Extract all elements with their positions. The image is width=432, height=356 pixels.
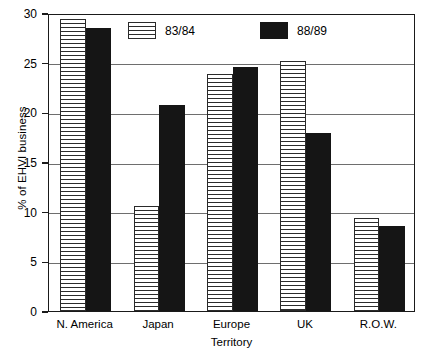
- y-axis-tick-label: 20: [8, 106, 37, 120]
- y-axis-tick-label: 30: [8, 7, 37, 21]
- y-axis-tick-label: 25: [8, 57, 37, 71]
- x-axis-category-label: N. America: [57, 318, 113, 330]
- y-axis-tick: [42, 162, 48, 163]
- legend-swatch-icon: [260, 22, 288, 39]
- bar-uk-88-89: [306, 133, 332, 311]
- x-axis-category-label: UK: [297, 318, 313, 330]
- bar-n-america-88-89: [86, 28, 112, 311]
- y-axis-tick: [42, 262, 48, 263]
- y-axis-tick: [42, 13, 48, 14]
- bar-japan-83-84: [134, 206, 160, 311]
- legend-swatch-icon: [128, 22, 156, 39]
- plot-inner: [49, 15, 414, 311]
- bar-chart: % of EHVI business 051015202530N. Americ…: [0, 0, 432, 356]
- bar-europe-83-84: [207, 74, 233, 311]
- bar-r-o-w-88-89: [379, 226, 405, 311]
- x-axis-category-label: Europe: [213, 318, 250, 330]
- x-axis-category-label: Japan: [142, 318, 173, 330]
- x-axis-title: Territory: [211, 336, 253, 348]
- y-axis-tick: [42, 311, 48, 312]
- x-axis-category-label: R.O.W.: [360, 318, 397, 330]
- plot-area: [48, 14, 415, 312]
- y-axis-tick-label: 5: [8, 255, 37, 269]
- bar-uk-83-84: [280, 61, 306, 311]
- y-axis-tick: [42, 113, 48, 114]
- y-axis-tick: [42, 63, 48, 64]
- bar-europe-88-89: [233, 67, 259, 311]
- legend-item-83-84: 83/84: [128, 22, 195, 39]
- legend-label: 83/84: [165, 24, 195, 38]
- bar-r-o-w-83-84: [354, 218, 380, 311]
- y-axis-tick-label: 15: [8, 156, 37, 170]
- y-axis-tick-label: 0: [8, 305, 37, 319]
- legend-label: 88/89: [297, 24, 327, 38]
- legend-item-88-89: 88/89: [260, 22, 327, 39]
- bar-n-america-83-84: [60, 19, 86, 311]
- y-axis-tick-label: 10: [8, 206, 37, 220]
- bar-japan-88-89: [159, 105, 185, 311]
- y-axis-tick: [42, 212, 48, 213]
